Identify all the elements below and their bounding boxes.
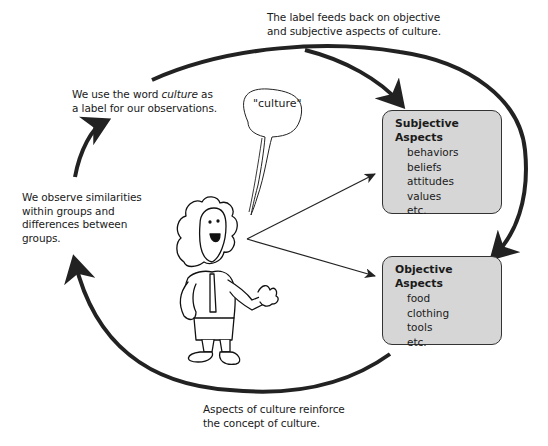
- caption-line: groups.: [22, 232, 142, 246]
- subjective-aspects-box: Subjective Aspects behaviors beliefs att…: [382, 110, 502, 214]
- caption-reinforce: Aspects of culture reinforce the concept…: [203, 403, 345, 430]
- box-title: Subjective Aspects: [395, 117, 501, 145]
- box-item: tools: [395, 320, 501, 335]
- caption-line: and subjective aspects of culture.: [267, 25, 441, 39]
- box-item: behaviors: [395, 145, 501, 160]
- box-item: values: [395, 189, 501, 204]
- box-item: attitudes: [395, 174, 501, 189]
- caption-line: within groups and: [22, 205, 142, 219]
- caption-line: We use the word culture as: [72, 88, 217, 102]
- box-item: beliefs: [395, 160, 501, 175]
- caption-line: the concept of culture.: [203, 417, 345, 431]
- box-item: clothing: [395, 306, 501, 321]
- caption-line: differences between: [22, 218, 142, 232]
- box-item: food: [395, 291, 501, 306]
- caption-line: We observe similarities: [22, 191, 142, 205]
- box-title: Objective Aspects: [395, 263, 501, 291]
- speech-bubble-text: "culture": [253, 97, 302, 110]
- caption-line: a label for our observations.: [72, 102, 217, 116]
- caption-observe: We observe similarities within groups an…: [22, 191, 142, 245]
- caption-line: The label feeds back on objective: [267, 11, 441, 25]
- feedback-arrow-inner: [305, 50, 400, 103]
- caption-line: Aspects of culture reinforce: [203, 403, 345, 417]
- caption-text: We use the word: [72, 88, 162, 100]
- to-objective-arrow: [247, 239, 375, 276]
- objective-aspects-box: Objective Aspects food clothing tools et…: [382, 256, 502, 345]
- to-subjective-arrow: [247, 174, 375, 239]
- box-item: etc.: [395, 335, 501, 350]
- caption-italic: culture: [162, 88, 198, 100]
- observe-arrow: [75, 122, 104, 177]
- caption-label: We use the word culture as a label for o…: [72, 88, 217, 115]
- caption-text: as: [198, 88, 213, 100]
- box-item: etc.: [395, 203, 501, 218]
- caption-feedback: The label feeds back on objective and su…: [267, 11, 441, 38]
- person-illustration: [177, 197, 278, 365]
